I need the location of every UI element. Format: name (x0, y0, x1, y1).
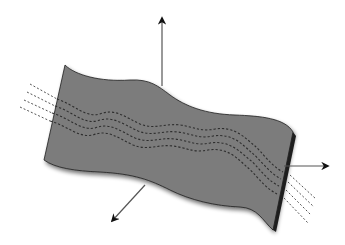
wavy-sheet-diagram (0, 0, 345, 245)
dashed-lines-right-outside (284, 175, 316, 223)
lower-left-axis (112, 185, 145, 221)
diagram-canvas (0, 0, 345, 245)
dashed-lines-left-outside (20, 84, 57, 121)
wavy-sheet (44, 65, 293, 230)
